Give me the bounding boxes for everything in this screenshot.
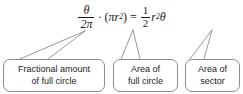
leader-line-fractional-upper <box>20 31 85 59</box>
leader-line-sector-right <box>204 30 212 59</box>
callout-fullcircle-line1: Area of <box>131 64 160 76</box>
callout-area-of-full-circle: Area of full circle <box>113 59 178 92</box>
callout-area-of-sector: Area of sector <box>185 59 240 92</box>
leader-line-fullcircle-left <box>121 30 133 59</box>
callout-fractional-amount: Fractional amount of full circle <box>3 59 105 92</box>
leader-line-fractional-lower <box>48 31 85 59</box>
equals-sign: = <box>127 11 140 23</box>
callout-fullcircle-line2: full circle <box>128 76 163 88</box>
fraction-theta-over-two-pi: θ 2π <box>78 4 94 30</box>
half-denominator: 2 <box>141 18 151 29</box>
callout-sector-line1: Area of <box>198 64 227 76</box>
leader-line-sector-left <box>190 30 212 59</box>
half-numerator: 1 <box>141 5 151 16</box>
figure-canvas: θ 2π · ( π r 2 ) = 1 2 r 2 θ <box>0 0 243 94</box>
callout-sector-line2: sector <box>200 76 225 88</box>
equation-row: θ 2π · ( π r 2 ) = 1 2 r 2 θ <box>77 4 165 30</box>
multiplication-dot: · <box>95 11 104 23</box>
fraction-denominator-two-pi: 2π <box>78 18 94 30</box>
equation: θ 2π · ( π r 2 ) = 1 2 r 2 θ <box>0 4 243 30</box>
callout-fractional-line1: Fractional amount <box>18 64 90 76</box>
leader-line-fullcircle-right <box>133 30 140 59</box>
callout-fractional-line2: of full circle <box>31 76 76 88</box>
fraction-numerator-theta: θ <box>82 4 92 16</box>
theta-symbol: θ <box>160 11 166 23</box>
fraction-one-half: 1 2 <box>141 5 151 29</box>
